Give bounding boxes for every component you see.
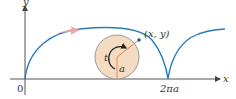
cusp-label: 2πa [159,83,179,94]
x-axis-label: x [223,73,229,84]
point-marker [137,38,141,42]
point-label: (x, y) [144,28,170,39]
origin-label: 0 [17,83,23,94]
cycloid-diagram: y x 0 (x, y) t a 2πa [0,0,236,99]
radius-label: a [119,63,125,74]
y-axis-label: y [22,0,29,7]
